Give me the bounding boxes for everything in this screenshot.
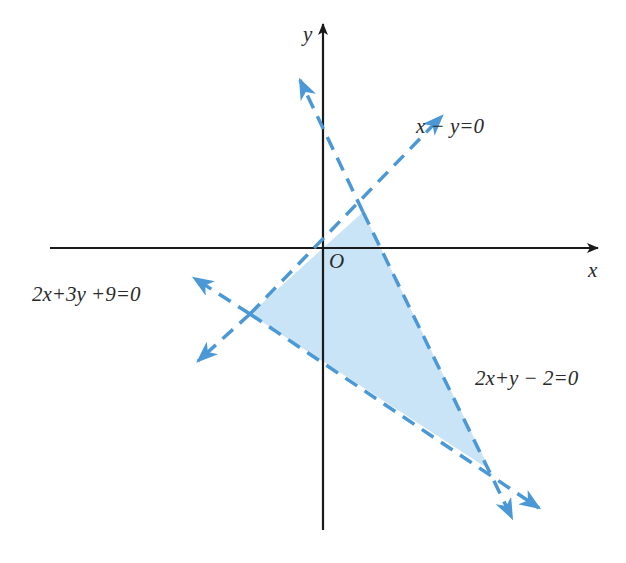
line-2x-plus-y-minus-2 (300, 80, 363, 212)
origin-label: O (329, 249, 344, 274)
line-2x-plus-3y-plus-9 (194, 278, 250, 314)
label-2x-plus-y-minus-2: 2x+y − 2=0 (475, 366, 578, 391)
y-axis-label: y (303, 22, 312, 47)
label-2x-plus-3y-plus-9: 2x+3y +9=0 (32, 282, 140, 307)
feasible-region (250, 212, 490, 470)
label-x-minus-y: x − y=0 (416, 114, 484, 139)
line-x-minus-y-ext (198, 314, 250, 361)
x-axis-label: x (588, 258, 597, 283)
